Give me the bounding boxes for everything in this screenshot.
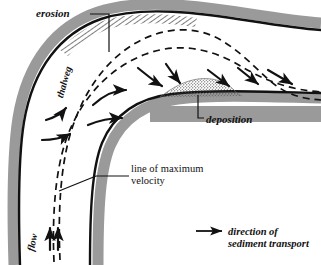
sediment-arrow-1 — [46, 108, 66, 120]
sediment-arrow-6 — [166, 64, 180, 83]
meander-diagram-figure: erosion deposition thalweg flow line of … — [0, 0, 321, 265]
max-velocity-leader-tail — [59, 176, 96, 191]
sediment-arrow-3 — [93, 90, 126, 105]
sediment-arrow-5 — [138, 68, 162, 86]
deposition-stipple — [160, 79, 242, 97]
legend-line-1: direction of — [228, 226, 309, 238]
max-velocity-line-1: line of maximum — [131, 163, 203, 175]
label-erosion: erosion — [36, 7, 70, 19]
max-velocity-line-2: velocity — [131, 175, 203, 187]
label-deposition: deposition — [206, 113, 252, 125]
legend-label: direction of sediment transport — [228, 226, 309, 250]
label-line-of-maximum-velocity: line of maximum velocity — [131, 163, 203, 187]
legend-line-2: sediment transport — [228, 238, 309, 250]
